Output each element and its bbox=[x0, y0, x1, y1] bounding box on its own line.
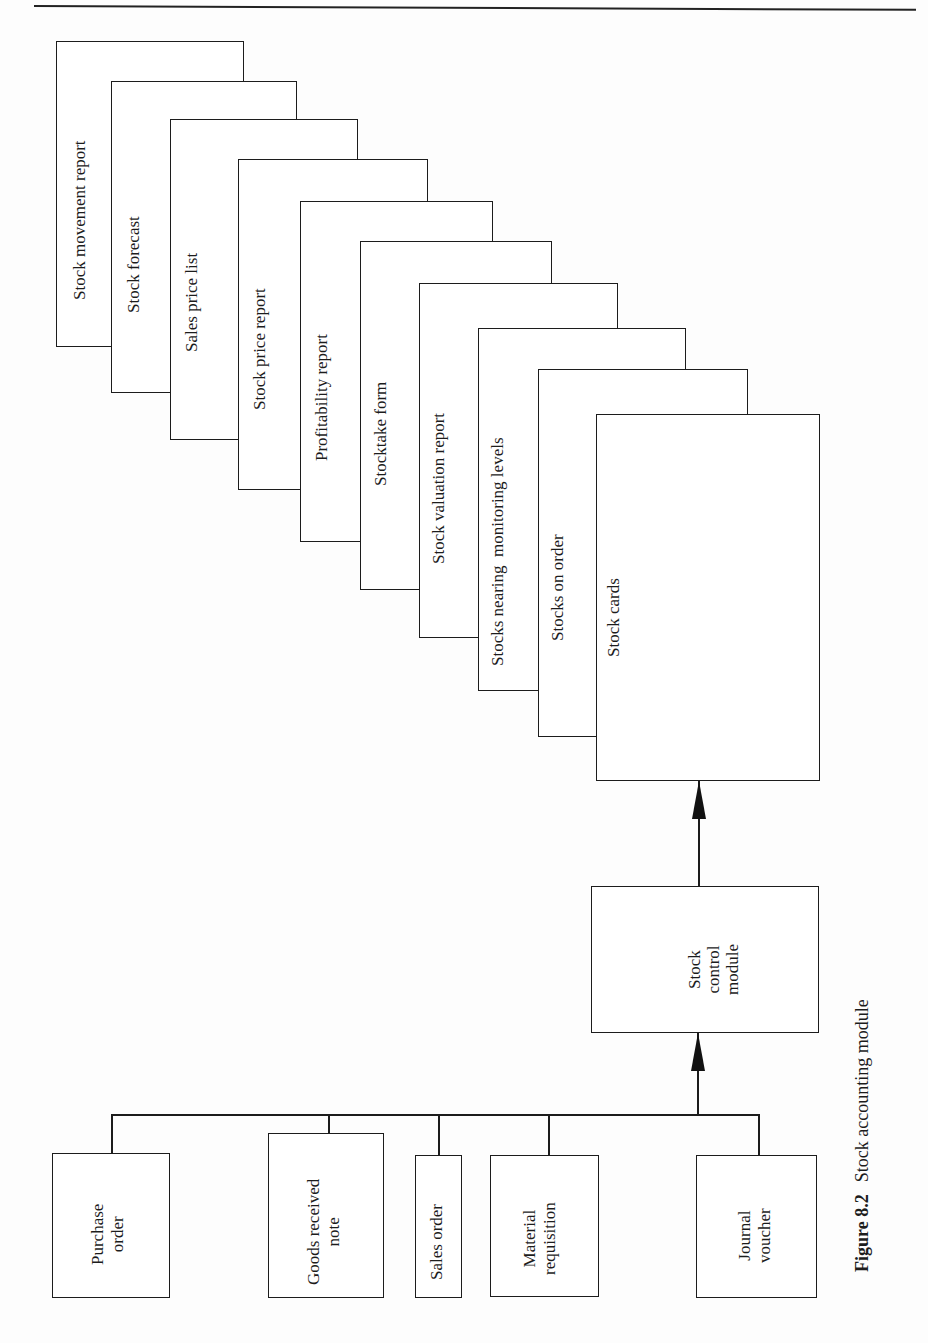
figure-title: Stock accounting module bbox=[852, 999, 872, 1182]
input-label-sales-order: Sales order bbox=[427, 1204, 447, 1280]
output-box-stock-cards bbox=[596, 414, 820, 781]
figure-number: Figure 8.2 bbox=[852, 1194, 872, 1272]
input-label-journal-voucher: Journal voucher bbox=[735, 1208, 775, 1263]
output-label-profitability-report: Profitability report bbox=[312, 334, 332, 461]
book-page: Stock movement report Stock forecast Sal… bbox=[0, 0, 928, 1343]
output-label-stock-cards: Stock cards bbox=[604, 578, 624, 657]
arrow-up-icon bbox=[692, 781, 706, 819]
output-label-sales-price-list: Sales price list bbox=[182, 253, 202, 352]
connector-purchase-order bbox=[111, 1114, 113, 1154]
input-label-goods-received-note: Goods received note bbox=[304, 1179, 344, 1285]
input-label-purchase-order: Purchase order bbox=[88, 1204, 128, 1265]
connector-material-requisition bbox=[548, 1114, 550, 1156]
output-label-stock-forecast: Stock forecast bbox=[124, 216, 144, 313]
output-label-stock-movement-report: Stock movement report bbox=[70, 140, 90, 300]
connector-goods-received-note bbox=[328, 1114, 330, 1134]
output-label-stocks-nearing-monitoring-levels: Stocks nearing monitoring levels bbox=[488, 437, 508, 666]
connector-sales-order bbox=[438, 1114, 440, 1156]
output-label-stock-price-report: Stock price report bbox=[250, 288, 270, 410]
output-label-stocktake-form: Stocktake form bbox=[371, 382, 391, 486]
figure-caption: Figure 8.2Stock accounting module bbox=[852, 999, 873, 1272]
arrow-up-icon bbox=[691, 1033, 705, 1071]
connector-journal-voucher bbox=[758, 1114, 760, 1156]
output-label-stocks-on-order: Stocks on order bbox=[548, 534, 568, 641]
stock-control-module-label: Stock control module bbox=[685, 944, 742, 995]
input-label-material-requisition: Material requisition bbox=[520, 1202, 560, 1275]
output-label-stock-valuation-report: Stock valuation report bbox=[429, 413, 449, 564]
input-bus-line bbox=[112, 1114, 759, 1116]
header-rule bbox=[34, 5, 916, 11]
